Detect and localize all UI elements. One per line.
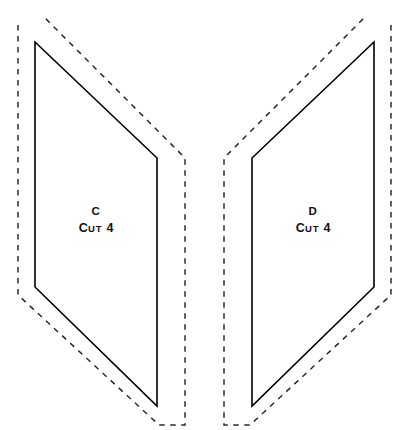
pattern-drawing-canvas: C CUT4 D CUT4 [0,0,405,430]
piece-d-cut-label-lead: C [296,221,305,235]
piece-d-cut-label-rest: UT [305,223,319,234]
piece-c-cut-label-rest: UT [88,223,102,234]
piece-c-cut-label-lead: C [79,221,88,235]
piece-d-cut-quantity: 4 [323,221,330,235]
piece-c-letter-label: C [92,205,101,217]
piece-c-cut-label: CUT4 [79,221,114,235]
piece-d-cut-label: CUT4 [296,221,331,235]
piece-d-letter-label: D [309,205,318,217]
pattern-sheet: C CUT4 D CUT4 [0,0,405,430]
piece-c-cut-quantity: 4 [106,221,113,235]
